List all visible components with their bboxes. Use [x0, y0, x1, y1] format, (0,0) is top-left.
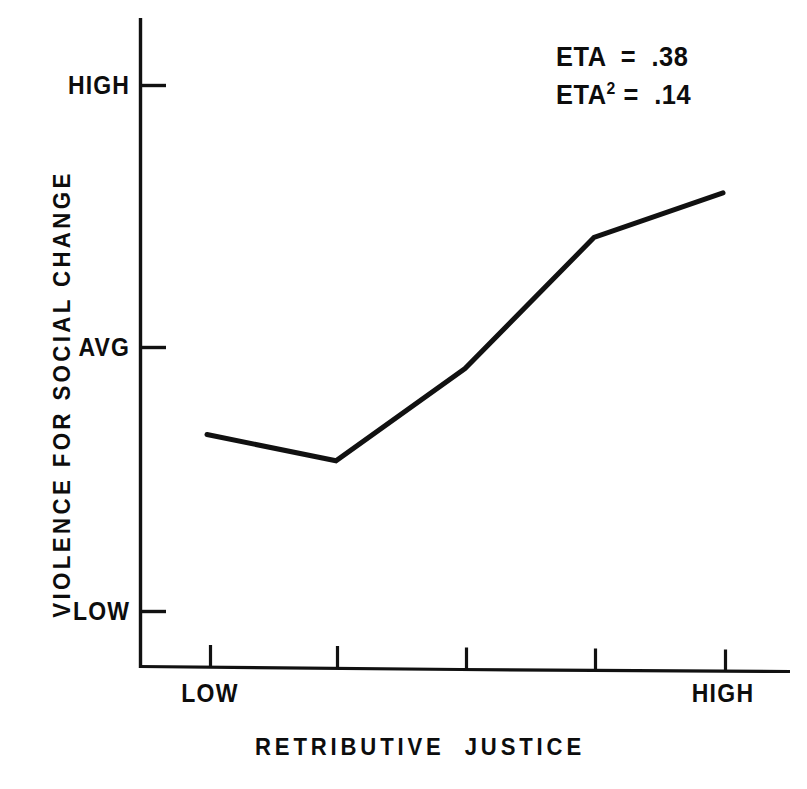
eta-squared-exponent: 2 [607, 79, 616, 98]
eta-squared-equals: = [616, 80, 654, 110]
chart-figure: HIGH AVG LOW LOW HIGH RETRIBUTIVE JUSTIC… [0, 0, 807, 789]
y-tick-label-high: HIGH [10, 73, 130, 98]
eta-label: ETA [556, 42, 606, 72]
eta-squared-statistic: ETA2 = .14 [556, 76, 691, 114]
eta-squared-value: .14 [654, 80, 691, 110]
eta-equals: = [606, 42, 652, 72]
statistics-annotation: ETA = .38 ETA2 = .14 [556, 38, 700, 115]
y-tick-label-low: LOW [10, 599, 130, 624]
data-series-line [207, 193, 723, 461]
eta-value: .38 [651, 42, 688, 72]
y-tick-label-avg: AVG [10, 335, 130, 360]
x-axis-line [139, 667, 790, 672]
x-axis-title: RETRIBUTIVE JUSTICE [144, 735, 696, 759]
x-tick-label-high: HIGH [668, 681, 778, 706]
chart-plot-area [0, 0, 807, 789]
eta-squared-label: ETA [556, 80, 607, 110]
x-tick-label-low: LOW [155, 681, 265, 706]
eta-statistic: ETA = .38 [556, 38, 691, 76]
